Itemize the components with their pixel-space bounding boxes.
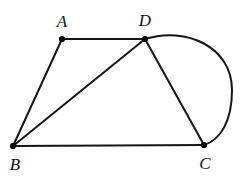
- vertex-dot-a: [59, 36, 65, 42]
- vertex-dot-b: [10, 143, 16, 149]
- geometry-figure: A D B C: [0, 0, 250, 177]
- vertex-label-c: C: [199, 155, 210, 172]
- segment-dc: [145, 39, 204, 145]
- arc-dc: [145, 35, 232, 145]
- vertex-label-b: B: [10, 156, 20, 173]
- figure-canvas: [0, 0, 250, 177]
- segment-ab: [13, 39, 62, 146]
- segment-bd: [13, 39, 145, 146]
- vertex-dot-d: [142, 36, 148, 42]
- vertex-label-a: A: [57, 13, 67, 30]
- vertex-dot-c: [201, 142, 207, 148]
- segment-bc: [13, 145, 204, 146]
- vertex-label-d: D: [139, 12, 151, 29]
